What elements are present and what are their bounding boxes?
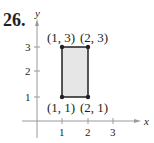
label-1-1: (1, 1): [47, 100, 75, 115]
label-2-3: (2, 3): [80, 30, 108, 45]
x-tick-1: 1: [59, 126, 65, 138]
point-1-3: [60, 45, 64, 49]
point-1-1: [60, 95, 64, 99]
figure: 26. y x 1 2 3 1 2 3 (1, 3) (2, 3) (1, 1)…: [0, 0, 154, 143]
shaded-rectangle: [62, 47, 88, 97]
point-2-3: [86, 45, 90, 49]
x-tick-2: 2: [85, 126, 91, 138]
y-tick-1: 1: [25, 91, 31, 103]
point-2-1: [86, 95, 90, 99]
coordinate-plot: y x 1 2 3 1 2 3 (1, 3) (2, 3) (1, 1) (2,…: [0, 0, 154, 143]
x-tick-3: 3: [110, 126, 116, 138]
x-axis-label: x: [143, 115, 149, 127]
y-axis-arrow-icon: [35, 19, 39, 26]
x-axis-arrow-icon: [134, 119, 141, 123]
y-axis-label: y: [34, 7, 40, 19]
y-tick-3: 3: [25, 41, 31, 53]
label-1-3: (1, 3): [47, 30, 75, 45]
y-tick-2: 2: [25, 65, 31, 77]
label-2-1: (2, 1): [80, 100, 108, 115]
